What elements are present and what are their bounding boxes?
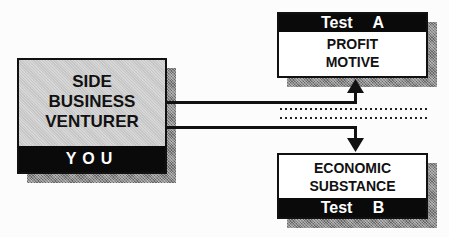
arrow-down-icon — [347, 138, 364, 152]
arrow-up-icon — [347, 79, 364, 93]
arrowheads — [0, 0, 449, 237]
